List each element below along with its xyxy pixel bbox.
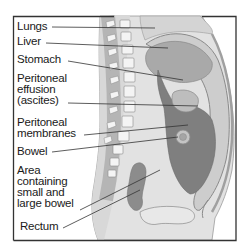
label-lungs: Lungs	[17, 21, 47, 32]
label-stomach: Stomach	[17, 54, 61, 65]
label-peritoneal-effusion: Peritoneal effusion (ascites)	[17, 73, 67, 106]
diagram-canvas: Lungs Liver Stomach Peritoneal effusion …	[0, 0, 251, 251]
label-peritoneal-membranes: Peritoneal membranes	[17, 117, 76, 139]
label-bowel: Bowel	[17, 146, 47, 157]
label-liver: Liver	[17, 36, 41, 47]
pelvis-bone	[140, 206, 195, 224]
bowel-loop	[176, 130, 190, 144]
label-rectum: Rectum	[20, 221, 58, 232]
label-area-bowel: Area containing small and large bowel	[17, 165, 74, 209]
